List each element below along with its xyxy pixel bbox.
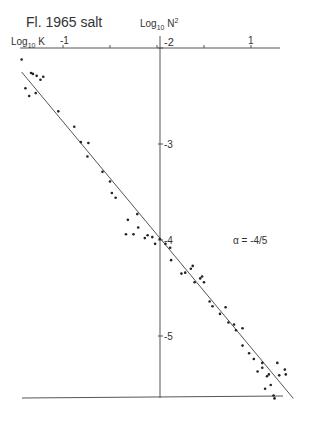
data-point [80,141,83,144]
data-point [125,233,128,236]
data-point [248,352,251,355]
data-point [184,271,187,274]
data-point [276,362,279,365]
data-point [273,397,276,400]
data-point [264,388,267,391]
data-point [87,142,90,145]
data-point [151,236,154,239]
y-tick-label: -3 [164,139,173,150]
y-axis-label-sup: 2 [175,17,179,24]
data-point [143,237,146,240]
data-point [203,281,206,284]
data-point [278,374,281,377]
y-tick-label: -2 [164,36,174,48]
data-point [190,268,193,271]
data-point [208,300,211,303]
data-point [136,213,139,216]
data-point [170,259,173,262]
data-point [109,180,112,183]
data-point [261,366,264,369]
x-axis-label-base: Log [11,36,28,47]
data-point [219,313,222,316]
data-point [284,373,287,376]
data-point [191,265,194,268]
data-point [20,58,23,61]
data-point [101,171,104,174]
data-point [199,277,202,280]
data-point [28,95,31,98]
data-point [24,87,27,90]
data-point [159,238,162,241]
data-point [269,384,272,387]
y-axis-label-var: N [167,18,174,29]
slope-annotation: α = -4/5 [233,235,267,246]
x-tick-label: -1 [60,35,69,46]
y-axis-label: Log10 N2 [140,17,178,31]
data-point [261,362,264,365]
data-point [137,226,140,229]
data-point [32,73,35,76]
data-point [201,275,204,278]
data-point [253,358,256,361]
data-point [256,370,259,373]
data-point [180,272,183,275]
data-point [241,344,244,347]
data-point [42,76,45,79]
data-point [224,306,227,309]
data-point [233,323,236,326]
data-point [169,246,172,249]
data-point [235,329,238,332]
data-point [39,78,42,81]
x-axis-label: Log10 K [11,36,45,49]
data-point [146,234,149,237]
x-axis-label-sub: 10 [28,42,36,49]
data-point [266,375,269,378]
data-point [284,368,287,371]
data-point [127,219,130,222]
y-axis-label-sub: 10 [157,24,165,31]
data-point [73,125,76,128]
data-point [86,155,89,158]
data-points [20,58,287,399]
x-ticks: -11 [60,35,254,48]
data-point [35,75,38,78]
data-point [111,192,114,195]
data-point [227,321,230,324]
x-axis-label-var: K [38,36,45,47]
y-tick-label: -5 [164,331,173,342]
chart-title: Fl. 1965 salt [26,14,102,30]
y-axis-label-base: Log [140,18,157,29]
data-point [154,243,157,246]
data-point [114,196,117,199]
data-point [272,394,275,397]
data-point [57,110,60,113]
data-point [132,233,135,236]
data-point [211,305,214,308]
data-point [268,373,271,376]
x-axis-bottom [22,396,283,398]
data-point [34,92,37,95]
x-tick-label: 1 [248,35,254,46]
data-point [241,327,244,330]
scatter-plot: -11 -2-3-4-5 [0,0,311,422]
data-point [164,243,167,246]
data-point [193,281,196,284]
